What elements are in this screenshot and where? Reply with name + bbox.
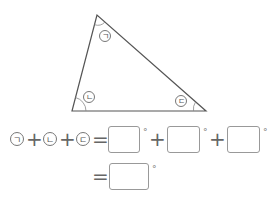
- plus-sign: +: [209, 129, 226, 149]
- angle-label-top: ㄱ: [99, 30, 111, 42]
- angle-label-bottom-left: ㄴ: [83, 91, 95, 103]
- degree-symbol: °: [143, 128, 148, 137]
- angle-arc-bottom-right: [193, 102, 195, 111]
- equals-sign: =: [92, 166, 109, 186]
- equals-sign: =: [92, 129, 109, 149]
- angle-label-bottom-right: ㄷ: [175, 95, 187, 107]
- angle-arc-top: [95, 22, 106, 25]
- term-1: ㄱ: [10, 132, 24, 146]
- answer-box-1[interactable]: [108, 126, 140, 153]
- answer-box-total[interactable]: [109, 163, 149, 190]
- term-2: ㄴ: [43, 132, 57, 146]
- degree-symbol: °: [263, 128, 268, 137]
- plus-sign: +: [149, 129, 166, 149]
- answer-box-2[interactable]: [167, 126, 200, 153]
- plus-sign: +: [26, 129, 43, 149]
- degree-symbol: °: [152, 165, 157, 174]
- answer-box-3[interactable]: [227, 126, 260, 153]
- degree-symbol: °: [203, 128, 208, 137]
- plus-sign: +: [59, 129, 76, 149]
- term-3: ㄷ: [76, 132, 90, 146]
